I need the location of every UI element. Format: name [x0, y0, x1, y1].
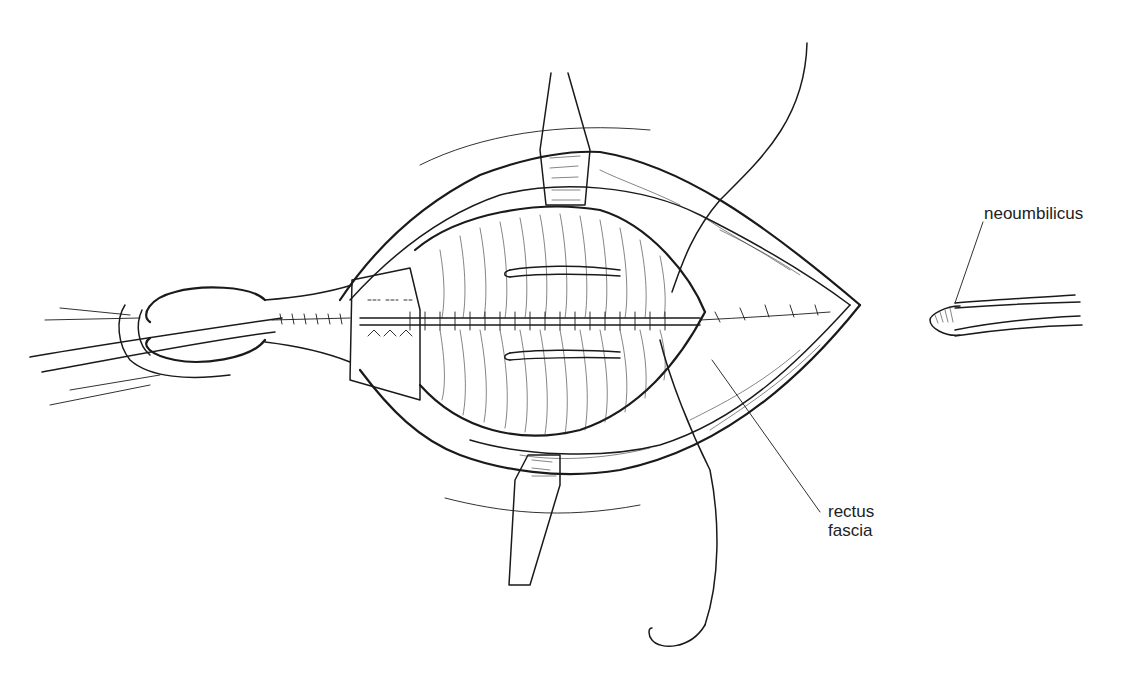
leader-lines — [712, 222, 983, 512]
wound-outline — [340, 152, 860, 474]
label-neoumbilicus: neoumbilicus — [984, 204, 1083, 223]
muscle-striations — [440, 214, 665, 434]
upper-retractor — [540, 73, 590, 205]
suture-thread — [649, 43, 807, 646]
flap-texture — [520, 170, 820, 459]
label-rectus-fascia: rectus fascia — [828, 502, 874, 540]
umbilical-stalk — [119, 285, 352, 377]
surgical-illustration — [0, 0, 1136, 675]
rectus-muscle — [360, 207, 705, 436]
neoumbilicus — [930, 295, 1082, 336]
label-rectus-fascia-line1: rectus — [828, 502, 874, 521]
label-rectus-fascia-line2: fascia — [828, 521, 874, 540]
drain-tube — [30, 308, 282, 405]
